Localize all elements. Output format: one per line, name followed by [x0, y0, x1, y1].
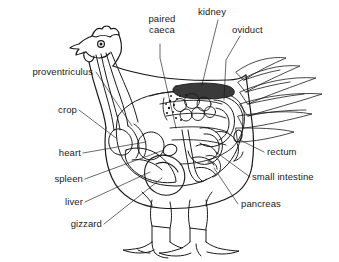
label-proventriculus: proventriculus	[0, 66, 93, 77]
label-liver: liver	[0, 196, 83, 207]
label-kidney: kidney	[198, 6, 226, 17]
label-paired-caeca-line1: paired	[139, 13, 185, 24]
label-rectum: rectum	[267, 146, 297, 157]
label-pancreas: pancreas	[241, 198, 281, 209]
eye-pupil	[100, 43, 103, 46]
label-crop: crop	[0, 104, 77, 115]
label-oviduct: oviduct	[232, 24, 263, 35]
label-spleen: spleen	[0, 173, 83, 184]
label-gizzard: gizzard	[0, 218, 102, 229]
label-paired-caeca-line2: caeca	[139, 24, 185, 35]
label-heart: heart	[0, 147, 81, 158]
label-small-intestine: small intestine	[252, 171, 314, 182]
label-paired-caeca: paired caeca	[139, 13, 185, 35]
diagram-page: paired caeca kidney oviduct proventricul…	[0, 0, 339, 262]
